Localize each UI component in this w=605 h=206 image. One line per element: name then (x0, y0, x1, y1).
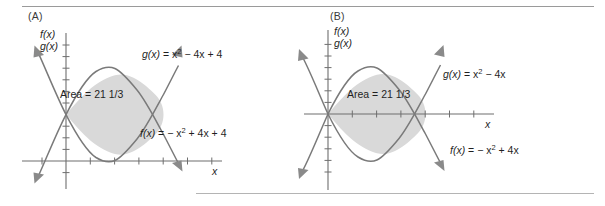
equation-f-b: f(x) = − x2 + 4x (450, 144, 519, 156)
panel-b: (B) (302, 0, 605, 206)
equation-f-b-suffix: + 4x (496, 144, 519, 156)
y-axis-label-gx-a: g(x) (40, 40, 58, 52)
x-axis-label-a: x (212, 165, 217, 177)
y-axis-label-a: f(x) g(x) (40, 28, 58, 52)
x-axis-label-b: x (485, 118, 490, 130)
equation-f-b-prefix: = − x (468, 144, 491, 156)
y-axis-label-gx-b: g(x) (334, 37, 352, 49)
equation-g-b-name: g(x) (443, 68, 461, 80)
y-axis-label-fx-a: f(x) (40, 28, 55, 40)
shaded-area-region-a (66, 74, 164, 154)
panel-a: (A) (0, 0, 303, 206)
equation-g-b-suffix: − 4x (483, 68, 506, 80)
equation-g-a: g(x) = x2 − 4x + 4 (142, 48, 222, 60)
equation-g-b: g(x) = x2 − 4x (443, 68, 506, 80)
y-axis-label-b: f(x) g(x) (334, 25, 352, 49)
y-axis-label-fx-b: f(x) (334, 25, 349, 37)
area-label-a: Area = 21 1/3 (60, 88, 123, 100)
area-label-b: Area = 21 1/3 (347, 88, 410, 100)
figure-container: (A) (0, 0, 605, 206)
equation-f-b-name: f(x) (450, 144, 465, 156)
equation-g-a-name: g(x) (142, 48, 160, 60)
equation-g-b-prefix: = x (464, 68, 478, 80)
equation-f-a-prefix: = − x (158, 127, 181, 139)
equation-f-a-suffix: + 4x + 4 (186, 127, 227, 139)
equation-f-a: f(x) = − x2 + 4x + 4 (140, 127, 227, 139)
equation-f-a-name: f(x) (140, 127, 155, 139)
equation-g-a-prefix: = x (163, 48, 177, 60)
equation-g-a-suffix: − 4x + 4 (182, 48, 223, 60)
